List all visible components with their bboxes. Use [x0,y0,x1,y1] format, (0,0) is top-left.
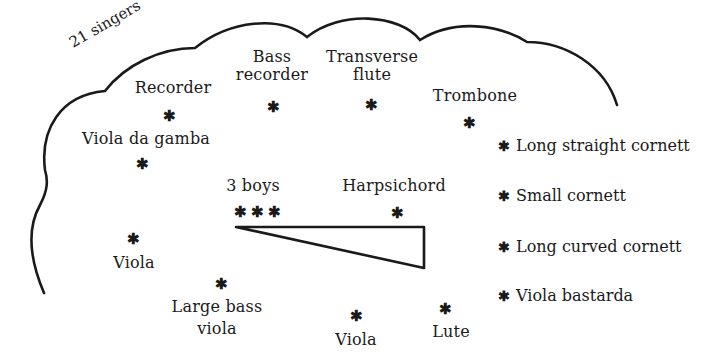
transverse-flute-label-line2: flute [353,66,391,84]
lute-marker-icon: ✱ [439,302,452,317]
large-bass-viola-marker-icon: ✱ [215,277,228,292]
three-boys-label: 3 boys [226,177,280,195]
outside-item-small-cornett: ✱Small cornett [498,187,626,205]
large-bass-viola-label-line2: viola [197,320,236,338]
trombone-label: Trombone [433,87,517,105]
viola-left-marker-icon: ✱ [127,232,140,247]
trombone-marker-icon: ✱ [463,116,476,131]
outside-item-long-curved-cornett: ✱Long curved cornett [498,238,682,256]
seating-diagram: 21 singers Recorder ✱ Bass recorder ✱ Tr… [0,0,724,363]
harpsichord-shape [236,227,424,268]
marker-icon: ✱ [498,239,510,255]
transverse-flute-label-line1: Transverse [326,48,418,66]
viola-bottom-marker-icon: ✱ [350,309,363,324]
viola-da-gamba-marker-icon: ✱ [136,157,149,172]
viola-da-gamba-label: Viola da gamba [82,130,210,148]
recorder-marker-icon: ✱ [163,109,176,124]
bass-recorder-marker-icon: ✱ [267,100,280,115]
boy-marker-icon-3: ✱ [268,205,281,220]
marker-icon: ✱ [498,288,510,304]
viola-bottom-label: Viola [335,331,377,349]
boy-marker-icon-1: ✱ [234,205,247,220]
boy-marker-icon-2: ✱ [251,205,264,220]
bass-recorder-label-line2: recorder [236,66,308,84]
transverse-flute-marker-icon: ✱ [365,98,378,113]
large-bass-viola-label-line1: Large bass [172,298,263,316]
bass-recorder-label-line1: Bass [253,48,292,66]
recorder-label: Recorder [135,79,212,97]
viola-left-label: Viola [113,254,155,272]
lute-label: Lute [432,323,470,341]
harpsichord-label: Harpsichord [342,177,446,195]
marker-icon: ✱ [498,188,510,204]
marker-icon: ✱ [498,138,510,154]
outside-item-long-straight-cornett: ✱Long straight cornett [498,137,690,155]
harpsichord-marker-icon: ✱ [391,206,404,221]
outside-item-viola-bastarda: ✱Viola bastarda [498,287,633,305]
